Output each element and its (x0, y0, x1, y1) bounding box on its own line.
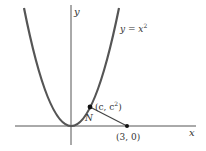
point-c-c2-label: (c, c2) (95, 100, 122, 112)
point-3-0-label: (3, 0) (116, 132, 140, 142)
point-c-label-post: ) (118, 102, 122, 112)
x-axis-label: x (189, 127, 195, 138)
curve-label: y = x2 (119, 22, 147, 34)
curve-label-lhs: y = x (119, 24, 143, 34)
point-c-label-pre: (c, c (95, 102, 114, 112)
point-c-c2 (88, 105, 93, 110)
point-3-0 (125, 124, 129, 128)
y-axis-label: y (73, 6, 80, 17)
curve-label-exp: 2 (143, 22, 147, 29)
diagram-canvas: y x y = x2 (c, c2) N (3, 0) (0, 0, 206, 151)
segment-label-n: N (84, 113, 94, 123)
